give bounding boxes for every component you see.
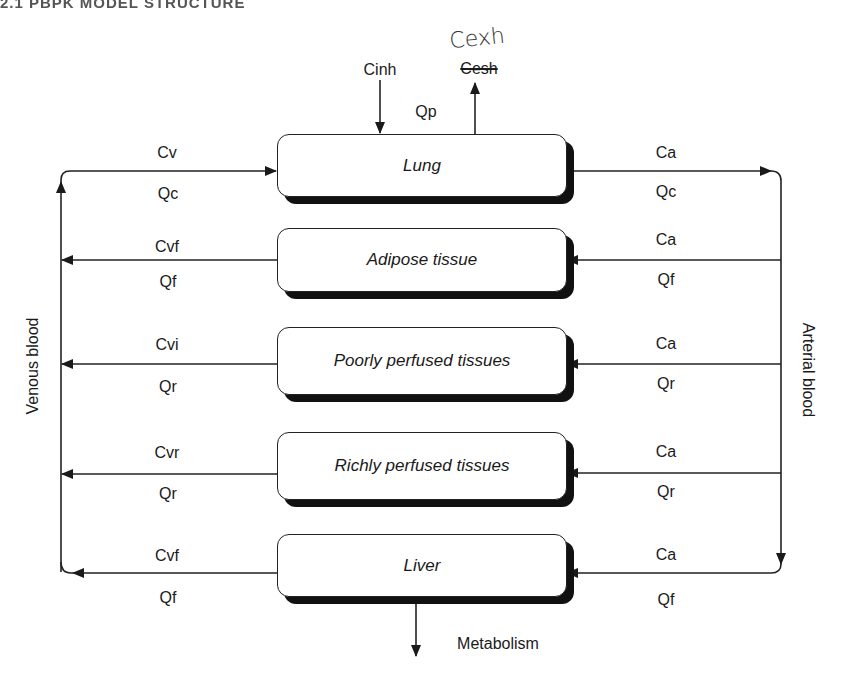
exhaled-concentration-struck-label: Cesh [460, 60, 497, 78]
poorly-perfused-compartment: Poorly perfused tissues [277, 327, 567, 395]
lung-compartment: Lung [277, 134, 567, 197]
metabolism-label: Metabolism [457, 635, 539, 653]
liver-left-conc-label: Cvf [155, 547, 179, 565]
liver-to-venous-arrowhead [72, 568, 84, 578]
liver-compartment: Liver [277, 534, 567, 597]
richly-right-flow-label: Qr [657, 483, 675, 501]
adipose-compartment: Adipose tissue [277, 228, 567, 292]
liver-left-flow-label: Qf [160, 589, 177, 607]
venous-blood-label: Venous blood [24, 318, 42, 415]
lung-left-conc-label: Cv [157, 144, 177, 162]
compartment-name: Adipose tissue [367, 250, 478, 270]
compartment-name: Lung [403, 156, 441, 176]
compartment-name: Liver [404, 556, 441, 576]
arterial-blood-label: Arterial blood [799, 323, 817, 417]
venous-to-lung-arrow [61, 171, 276, 183]
richly-left-flow-label: Qr [159, 485, 177, 503]
inhaled-concentration-label: Cinh [364, 61, 397, 79]
poorly-left-conc-label: Cvi [155, 336, 178, 354]
adipose-right-conc-label: Ca [656, 231, 676, 249]
adipose-left-flow-label: Qf [160, 273, 177, 291]
lung-right-conc-label: Ca [656, 144, 676, 162]
richly-left-conc-label: Cvr [155, 444, 180, 462]
poorly-left-flow-label: Qr [159, 378, 177, 396]
lung-right-flow-label: Qc [656, 183, 676, 201]
arterial-descending-arrow [771, 171, 781, 564]
richly-right-conc-label: Ca [656, 443, 676, 461]
pulmonary-flow-label: Qp [415, 103, 436, 121]
liver-right-flow-label: Qf [658, 591, 675, 609]
adipose-right-flow-label: Qf [658, 271, 675, 289]
adipose-left-conc-label: Cvf [155, 238, 179, 256]
liver-right-conc-label: Ca [656, 546, 676, 564]
pbpk-diagram: 2.1 PBPK MODEL STRUCTURE [0, 0, 843, 676]
poorly-right-flow-label: Qr [657, 375, 675, 393]
poorly-right-conc-label: Ca [656, 335, 676, 353]
compartment-name: Richly perfused tissues [335, 456, 510, 476]
lung-left-flow-label: Qc [158, 185, 178, 203]
compartment-name: Poorly perfused tissues [334, 351, 511, 371]
richly-perfused-compartment: Richly perfused tissues [277, 432, 567, 500]
arterial-to-liver-arrow [567, 564, 781, 573]
